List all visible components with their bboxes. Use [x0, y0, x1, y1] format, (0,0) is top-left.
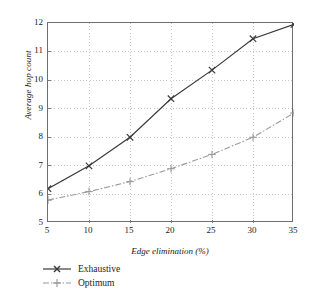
- grid-vertical: [89, 23, 253, 223]
- y-tick-label: 10: [21, 75, 43, 84]
- x-tick-label: 5: [33, 226, 61, 235]
- legend-label-optimum: Optimum: [72, 276, 114, 290]
- x-tick-label: 15: [115, 226, 143, 235]
- y-tick-label: 11: [21, 46, 43, 55]
- legend-swatch-exhaustive: [42, 262, 72, 276]
- x-tick-label: 30: [238, 226, 266, 235]
- x-tick-label: 25: [197, 226, 225, 235]
- y-tick-label: 7: [21, 161, 43, 170]
- legend-label-exhaustive: Exhaustive: [72, 262, 120, 276]
- x-tick-label: 20: [156, 226, 184, 235]
- y-tick-label: 8: [21, 132, 43, 141]
- y-axis-tick-labels: 12 11 10 9 8 7 6 5: [19, 0, 43, 295]
- x-tick-label: 35: [279, 226, 307, 235]
- x-axis-title: Edge elimination (%): [47, 246, 293, 256]
- legend-item-optimum: Optimum: [42, 276, 192, 290]
- plot-area: [47, 22, 293, 222]
- chart-figure: Average hop count 12 11 10 9 8 7 6 5: [0, 0, 317, 295]
- plot-canvas: [48, 23, 294, 223]
- legend-swatch-optimum: [42, 276, 72, 290]
- chart-legend: Exhaustive Optimum: [42, 262, 192, 290]
- y-tick-label: 12: [21, 18, 43, 27]
- y-tick-label: 9: [21, 104, 43, 113]
- y-tick-label: 6: [21, 189, 43, 198]
- x-tick-label: 10: [74, 226, 102, 235]
- legend-item-exhaustive: Exhaustive: [42, 262, 192, 276]
